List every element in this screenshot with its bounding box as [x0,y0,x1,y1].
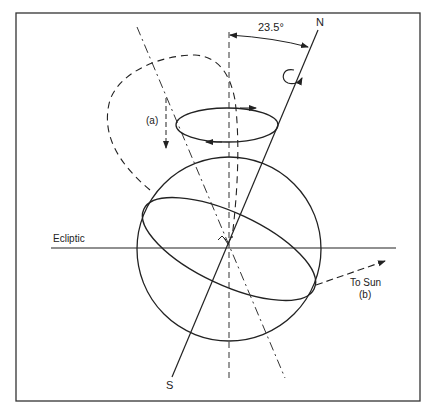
tilt-angle-arc [230,35,308,47]
north-label: N [316,16,324,28]
precession-loop-path [107,55,237,238]
label-b: (b) [359,289,371,300]
equator-ellipse [129,177,330,322]
figure-canvas: 23.5° N S (a) Ecliptic To Sun (b) [0,0,428,406]
to-sun-label: To Sun [350,277,381,288]
precession-ellipse [176,108,278,142]
figure-frame [16,13,420,401]
south-label: S [166,379,173,391]
dashed-axis-line [137,27,285,378]
rotation-axis [172,30,318,377]
ecliptic-label: Ecliptic [53,233,85,244]
label-a: (a) [146,115,158,126]
rotation-arrow-icon [283,70,302,84]
tilt-angle-label: 23.5° [258,21,284,33]
center-marker-icon [218,236,232,244]
